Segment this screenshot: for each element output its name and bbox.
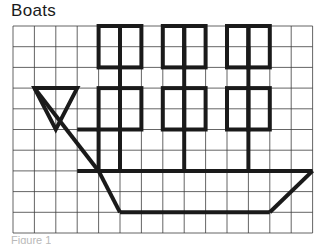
- cargo-square-top: [184, 26, 205, 67]
- cargo-square-middle: [248, 88, 269, 129]
- cargo-square-top: [163, 26, 184, 67]
- worksheet-page: Boats Figure 1: [0, 0, 316, 244]
- cargo-square-middle: [99, 88, 120, 129]
- cargo-square-middle: [120, 88, 141, 129]
- boat-drawing: [0, 0, 316, 244]
- cargo-square-top: [248, 26, 269, 67]
- hull-bow-diagonal: [99, 171, 120, 212]
- cargo-square-middle: [184, 88, 205, 129]
- cargo-square-top: [120, 26, 141, 67]
- cargo-square-top: [99, 26, 120, 67]
- grid-canvas: [0, 0, 316, 244]
- cargo-square-middle: [227, 88, 248, 129]
- cargo-square-top: [227, 26, 248, 67]
- cargo-square-middle: [163, 88, 184, 129]
- figure-caption: Figure 1: [11, 234, 51, 244]
- hull-stern-diagonal: [270, 171, 313, 212]
